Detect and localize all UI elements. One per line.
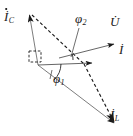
label-phi2-symbol: φ bbox=[75, 11, 82, 26]
label-u-symbol: U̇ bbox=[110, 14, 119, 29]
label-phi2: φ2 bbox=[75, 12, 87, 27]
vector-inductor-current bbox=[38, 65, 114, 123]
label-i-symbol: İ bbox=[119, 42, 123, 57]
label-total-current: İ bbox=[119, 43, 123, 56]
label-il-subscript: L bbox=[115, 114, 119, 123]
label-phi2-subscript: 2 bbox=[83, 18, 87, 27]
vector-voltage bbox=[59, 44, 114, 58]
dashed-construction-line bbox=[32, 15, 114, 122]
label-il-symbol: İ bbox=[110, 107, 114, 122]
label-inductor-current: İL bbox=[110, 108, 119, 123]
label-phi1: φ1 bbox=[53, 72, 65, 87]
vector-capacitor-current bbox=[30, 15, 39, 65]
right-angle-marker bbox=[29, 51, 41, 62]
label-voltage: U̇ bbox=[110, 15, 119, 28]
phi2-leader-line bbox=[71, 28, 79, 57]
label-ic-symbol: İ bbox=[4, 10, 8, 23]
phasor-diagram: İC φ2 U̇ İ φ1 İL bbox=[0, 0, 133, 136]
label-ic-subscript: C bbox=[9, 16, 14, 25]
label-phi1-subscript: 1 bbox=[61, 78, 65, 87]
label-phi1-symbol: φ bbox=[53, 71, 60, 86]
label-capacitor-current: İC bbox=[4, 10, 14, 25]
